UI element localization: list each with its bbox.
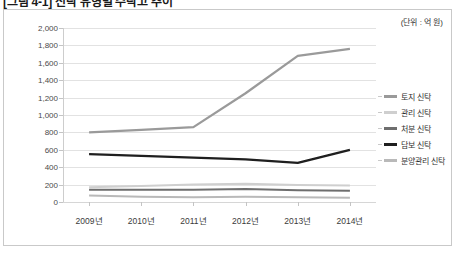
legend-swatch-icon — [384, 143, 397, 146]
x-axis-tick-label: 2012년 — [232, 214, 259, 226]
series-line — [89, 184, 350, 187]
y-axis-tick-label: 600 — [45, 145, 58, 154]
figure-caption: [그림 4-1] 신탁 유형별 수탁고 추이 — [3, 0, 173, 9]
legend-swatch-icon — [384, 159, 397, 162]
series-lines — [63, 28, 376, 202]
legend-item-3[interactable]: 처분 신탁 — [384, 120, 454, 136]
series-line — [89, 189, 350, 191]
legend-item-5[interactable]: 분양관리 신탁 — [384, 152, 454, 168]
x-axis-tick — [350, 202, 351, 206]
y-axis-tick-label: 1,000 — [38, 111, 58, 120]
legend-connector-tick — [378, 160, 382, 161]
legend-item-2[interactable]: 관리 신탁 — [384, 104, 454, 120]
chart-screenshot: [그림 4-1] 신탁 유형별 수탁고 추이 (단위 : 억 원) 2,0001… — [0, 0, 458, 254]
y-axis-tick-label: 1,600 — [38, 58, 58, 67]
x-axis-tick — [141, 202, 142, 206]
legend-item-1[interactable]: 토지 신탁 — [384, 88, 454, 104]
legend-item-4[interactable]: 담보 신탁 — [384, 136, 454, 152]
y-axis-tick — [59, 202, 63, 203]
chart-legend: 토지 신탁관리 신탁처분 신탁담보 신탁분양관리 신탁 — [384, 88, 454, 168]
legend-swatch-icon — [384, 127, 397, 130]
x-axis-tick — [298, 202, 299, 206]
legend-label: 처분 신탁 — [401, 123, 431, 134]
y-axis-tick-label: 200 — [45, 180, 58, 189]
x-axis-tick — [246, 202, 247, 206]
y-axis-labels: 2,0001,8001,6001,4001,2001,0008006004002… — [18, 28, 58, 202]
y-axis-tick-label: 0 — [54, 198, 58, 207]
x-axis-tick-label: 2010년 — [128, 214, 155, 226]
y-axis-tick-label: 2,000 — [38, 24, 58, 33]
legend-label: 분양관리 신탁 — [401, 155, 445, 166]
x-axis-labels: 2009년2010년2011년2012년2013년2014년 — [63, 214, 376, 228]
y-axis-tick-label: 800 — [45, 128, 58, 137]
legend-connector-tick — [378, 96, 382, 97]
legend-swatch-icon — [384, 111, 397, 114]
legend-label: 토지 신탁 — [401, 91, 431, 102]
legend-connector-tick — [378, 128, 382, 129]
legend-connector-tick — [378, 112, 382, 113]
plot-area — [63, 28, 376, 202]
series-line — [89, 150, 350, 163]
series-line — [89, 195, 350, 197]
x-axis-tick-label: 2013년 — [284, 214, 311, 226]
x-axis-tick — [89, 202, 90, 206]
y-axis-tick-label: 400 — [45, 163, 58, 172]
y-axis-tick-label: 1,800 — [38, 41, 58, 50]
x-axis-tick-label: 2009년 — [76, 214, 103, 226]
legend-label: 관리 신탁 — [401, 107, 431, 118]
y-axis-tick-label: 1,200 — [38, 93, 58, 102]
legend-label: 담보 신탁 — [401, 139, 431, 150]
y-axis-tick-label: 1,400 — [38, 76, 58, 85]
unit-note: (단위 : 억 원) — [401, 16, 443, 27]
series-line — [89, 49, 350, 133]
x-axis-tick — [193, 202, 194, 206]
legend-swatch-icon — [384, 95, 397, 98]
figure-caption-strip: [그림 4-1] 신탁 유형별 수탁고 추이 — [0, 0, 458, 9]
gridline — [63, 202, 376, 203]
x-axis-tick-label: 2011년 — [180, 214, 206, 226]
x-axis-tick-label: 2014년 — [336, 214, 363, 226]
legend-connector-tick — [378, 144, 382, 145]
